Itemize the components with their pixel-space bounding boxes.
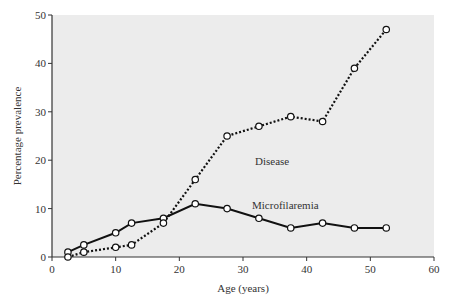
y-tick-label: 50: [35, 9, 47, 21]
y-tick-label: 20: [35, 154, 47, 166]
y-tick-label: 40: [35, 57, 47, 69]
x-tick-label: 60: [429, 263, 441, 275]
microfilaremia-data-point: [128, 220, 134, 226]
disease-data-point: [319, 118, 325, 124]
disease-data-point: [65, 254, 71, 260]
microfilaremia-data-point: [224, 205, 230, 211]
disease-data-point: [383, 26, 389, 32]
disease-data-point: [160, 220, 166, 226]
x-tick-label: 0: [49, 263, 55, 275]
disease-data-point: [351, 65, 357, 71]
microfilaremia-data-point: [351, 225, 357, 231]
chart: 010203040500102030405060 Disease Microfi…: [0, 0, 455, 304]
y-axis-title: Percentage prevalence: [11, 87, 23, 186]
microfilaremia-data-point: [256, 215, 262, 221]
x-axis-title: Age (years): [217, 282, 269, 295]
x-tick-label: 40: [301, 263, 313, 275]
disease-data-point: [224, 133, 230, 139]
y-tick-label: 30: [35, 106, 47, 118]
y-tick-label: 0: [41, 251, 47, 263]
disease-data-point: [128, 242, 134, 248]
disease-data-point: [192, 176, 198, 182]
disease-series-label: Disease: [255, 155, 289, 167]
x-tick-label: 30: [238, 263, 250, 275]
disease-data-point: [288, 113, 294, 119]
microfilaremia-data-point: [192, 201, 198, 207]
x-tick-label: 10: [110, 263, 122, 275]
disease-data-point: [112, 244, 118, 250]
microfilaremia-data-point: [288, 225, 294, 231]
microfilaremia-data-point: [81, 242, 87, 248]
microfilaremia-data-point: [112, 230, 118, 236]
disease-data-point: [256, 123, 262, 129]
microfilaremia-series-label: Microfilaremia: [252, 199, 319, 211]
microfilaremia-data-point: [383, 225, 389, 231]
x-tick-label: 50: [365, 263, 377, 275]
plot-area: [52, 15, 434, 257]
microfilaremia-data-point: [319, 220, 325, 226]
disease-data-point: [81, 249, 87, 255]
line-chart: 010203040500102030405060 Disease Microfi…: [0, 0, 455, 304]
x-tick-label: 20: [174, 263, 186, 275]
y-tick-label: 10: [35, 203, 47, 215]
